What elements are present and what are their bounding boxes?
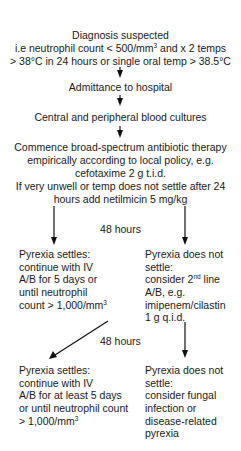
branch1-not-settle-node: Pyrexia does not settle: consider 2nd li…	[145, 248, 226, 324]
interval-label-1: 48 hours	[0, 223, 241, 236]
therapy-line: Commence broad-spectrum antibiotic thera…	[0, 141, 241, 154]
admit-node: Admittance to hospital	[0, 81, 241, 94]
therapy-line: hours add netilmicin 5 mg/kg	[0, 193, 241, 206]
start-title: Diagnosis suspected	[0, 29, 241, 42]
branch2-not-settle-node: Pyrexia does not settle: consider fungal…	[145, 364, 223, 440]
start-criteria-line: i.e neutrophil count < 500/mm3 and x 2 t…	[0, 42, 241, 55]
cultures-node: Central and peripheral blood cultures	[0, 111, 241, 124]
branch2-settles-node: Pyrexia settles: continue with IV A/B fo…	[19, 364, 128, 427]
branch1-settles-node: Pyrexia settles: continue with IV A/B fo…	[19, 248, 107, 311]
therapy-line: cefotaxime 2 g t.i.d.	[0, 167, 241, 180]
therapy-line: empirically according to local policy, e…	[0, 154, 241, 167]
start-temp-line: > 38°C in 24 hours or single oral temp >…	[0, 55, 241, 68]
interval-label-2: 48 hours	[100, 335, 141, 348]
therapy-line: If very unwell or temp does not settle a…	[0, 180, 241, 193]
